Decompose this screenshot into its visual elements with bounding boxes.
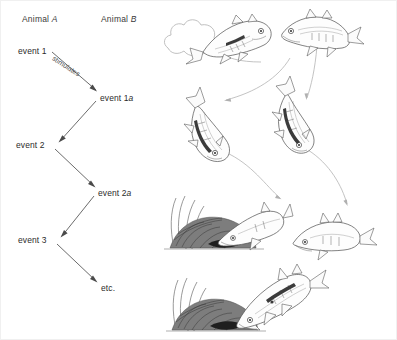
node-event-2-text: event 2 [16,140,45,150]
column-header-animal-b-letter: B [131,14,137,24]
node-event-2: event 2 [16,140,45,150]
node-event-2a-text: event 2 [98,188,127,198]
node-event-1: event 1 [18,46,47,56]
node-event-1a: event 1a [100,93,133,103]
node-event-3-text: event 3 [18,235,47,245]
arrow-event1a-to-event2 [59,101,97,143]
fish-scene-2 [282,9,364,57]
node-event-1-text: event 1 [18,46,47,56]
nest-scene-5 [164,196,377,260]
node-event-3: event 3 [18,235,47,245]
stickleback-sketch [160,0,397,340]
node-event-1a-text: event 1 [100,93,129,103]
node-event-2a: event 2a [98,188,131,198]
figure-reaction-chain: Animal A Animal B event 1 event 1a event… [0,0,397,340]
node-event-2a-suffix: a [127,188,132,198]
column-header-animal-b-text: Animal [101,14,131,24]
flow-diagram-panel: Animal A Animal B event 1 event 1a event… [0,0,170,340]
node-event-1a-suffix: a [129,93,134,103]
fish-scene-4 [272,76,314,153]
column-header-animal-a: Animal A [22,14,58,24]
nest-scene-6 [166,264,329,331]
node-etc: etc. [101,283,115,293]
arrow-event3-to-etc [57,244,98,283]
column-header-animal-b: Animal B [101,14,137,24]
arrow-event2-to-event2a [55,149,96,188]
column-header-animal-a-letter: A [52,14,58,24]
fish-scene-6a [237,264,329,329]
fish-scene-5b [293,213,377,260]
arrow-event2a-to-event3 [61,196,95,238]
illustration-panel [160,0,397,340]
fish-scene-3 [184,87,230,162]
column-header-animal-a-text: Animal [22,14,52,24]
node-etc-text: etc. [101,283,115,293]
